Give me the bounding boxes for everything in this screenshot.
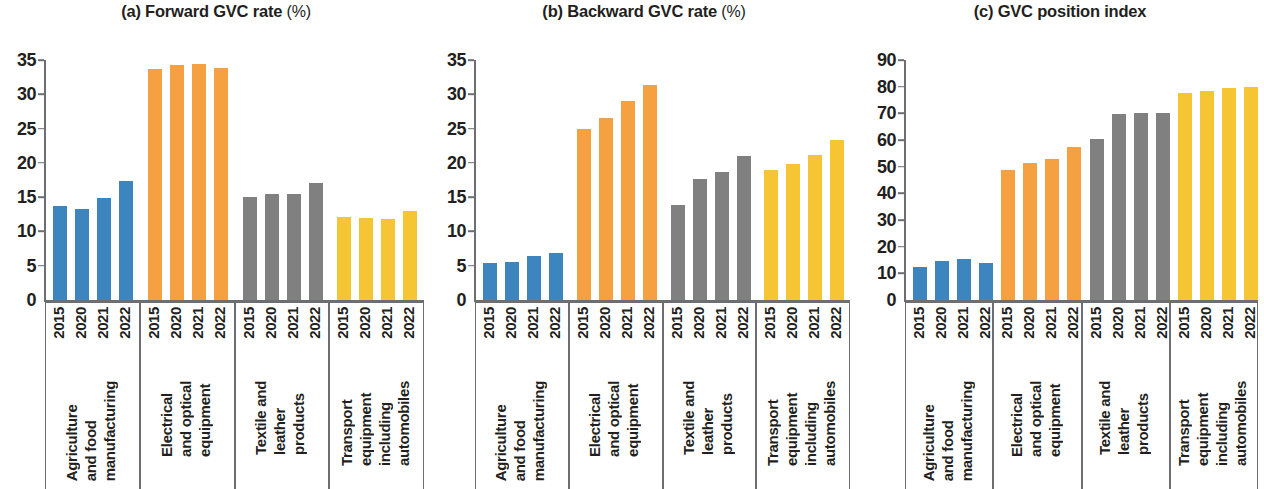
bar[interactable] [403,211,417,300]
bar[interactable] [1090,139,1104,300]
category-name: Electricaland opticalequipment [141,381,234,457]
bar[interactable] [1222,88,1236,300]
x-axis-year-label: 2020 [1021,307,1043,339]
y-axis-tick-label: 10 [447,222,466,240]
category-name-line: including [1214,381,1233,466]
bar-group-bars [45,60,140,300]
bar[interactable] [671,205,685,300]
bar-group-bars [569,60,663,300]
plot-area: 051015202530352015202020212022Agricultur… [432,52,856,489]
bars-area [475,60,850,300]
category-label-box: 2015202020212022Agricultureand foodmanuf… [475,302,569,489]
bar-group-bars [663,60,757,300]
panel-title: (a) Forward GVC rate (%) [0,2,432,21]
bar[interactable] [737,156,751,300]
panel-title-main: (c) GVC position index [974,2,1147,20]
panel-title-main: (a) Forward GVC rate [121,2,282,20]
bar[interactable] [643,85,657,300]
category-label-row: 2015202020212022Agricultureand foodmanuf… [45,302,424,489]
category-name-line: leather [700,381,719,455]
category-name: Textile andleatherproducts [236,381,329,455]
category-name: Agricultureand foodmanufacturing [46,381,139,481]
bar[interactable] [1200,91,1214,300]
bar[interactable] [549,253,563,300]
bar[interactable] [1045,159,1059,300]
x-axis-year-label: 2021 [713,307,735,339]
bar[interactable] [309,183,323,300]
category-name-line: equipment [784,381,803,466]
category-name-line: Electrical [1009,381,1028,457]
bar[interactable] [830,140,844,300]
bar[interactable] [381,219,395,300]
bar[interactable] [527,256,541,300]
bar[interactable] [715,172,729,300]
category-name-line: products [719,381,738,455]
x-axis-year-label: 2020 [784,307,806,339]
bar[interactable] [935,261,949,300]
x-axis-year-label: 2015 [1088,307,1110,339]
x-axis-year-label: 2021 [1132,307,1154,339]
bar[interactable] [119,181,133,300]
x-axis-year-label: 2015 [51,307,73,339]
x-axis-year-label: 2022 [212,307,234,339]
bar[interactable] [170,65,184,300]
plot-area: 051015202530352015202020212022Agricultur… [0,52,432,489]
bar[interactable] [621,101,635,300]
x-axis-year-label: 2021 [619,307,641,339]
bar[interactable] [1023,163,1037,300]
y-axis-tick-label: 80 [877,78,896,96]
bar-group-bars [905,60,993,300]
category-label-box: 2015202020212022Electricaland opticalequ… [140,302,235,489]
bar[interactable] [97,198,111,300]
bar[interactable] [337,217,351,300]
panel-title-unit: (%) [287,3,311,20]
bar[interactable] [1244,87,1258,300]
bar[interactable] [192,64,206,300]
bar[interactable] [75,209,89,300]
bar[interactable] [913,267,927,300]
bar[interactable] [1134,113,1148,300]
bar[interactable] [764,170,778,300]
x-axis-year-label: 2015 [146,307,168,339]
bar[interactable] [1112,114,1126,300]
bar[interactable] [1001,170,1015,300]
category-label-row: 2015202020212022Agricultureand foodmanuf… [905,302,1258,489]
category-name-line: leather [1116,381,1135,455]
category-name-line: products [291,381,310,455]
bar[interactable] [786,164,800,300]
x-axis-year-label: 2020 [597,307,619,339]
bar[interactable] [53,206,67,300]
category-label-box: 2015202020212022Textile andleatherproduc… [1082,302,1170,489]
bar[interactable] [265,194,279,300]
bar[interactable] [359,218,373,300]
category-name: Transportequipmentincludingautomobiles [330,381,423,466]
bar[interactable] [287,194,301,300]
bar[interactable] [505,262,519,300]
x-axis-year-label: 2022 [641,307,663,339]
y-axis-tick-label: 10 [877,264,896,282]
bar[interactable] [808,155,822,300]
y-axis-tick-label: 25 [17,120,36,138]
y-axis-tick-label: 90 [877,51,896,69]
bar-group [45,60,140,300]
x-axis-year-label: 2021 [95,307,117,339]
bar[interactable] [979,263,993,300]
bar[interactable] [214,68,228,300]
bar[interactable] [1067,147,1081,300]
year-tick-strip: 2015202020212022 [1176,307,1264,339]
bar[interactable] [483,263,497,300]
bar[interactable] [957,259,971,300]
x-axis-year-label: 2020 [1198,307,1220,339]
bar-group-bars [1170,60,1258,300]
bar[interactable] [577,129,591,300]
bar[interactable] [1156,113,1170,300]
bar[interactable] [243,197,257,300]
bar[interactable] [148,69,162,300]
bar[interactable] [693,179,707,300]
bar-group [569,60,663,300]
category-name-line: leather [272,381,291,455]
x-axis-year-label: 2015 [999,307,1021,339]
bar-group-bars [475,60,569,300]
bar[interactable] [599,118,613,300]
bar[interactable] [1178,93,1192,300]
